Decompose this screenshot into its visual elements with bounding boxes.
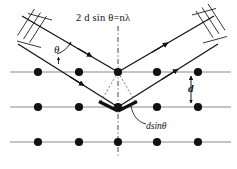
atom xyxy=(153,103,161,111)
atom xyxy=(34,103,42,111)
projection-line-right xyxy=(118,72,136,103)
incident-ray-lower-arrowhead xyxy=(70,77,84,86)
atom xyxy=(153,68,161,76)
incident-wavefront-ticks xyxy=(17,9,52,48)
incident-ray-upper-arrowhead xyxy=(78,49,92,57)
atom xyxy=(75,68,83,76)
projection-line-left xyxy=(100,72,118,103)
diagram-canvas xyxy=(0,0,237,169)
atom xyxy=(34,138,42,146)
theta-angle-label: θ xyxy=(54,44,59,55)
atom xyxy=(114,138,122,146)
diffracted-ray-lower-arrowhead xyxy=(162,69,178,79)
bragg-diffraction-figure: 2 d sin θ=nλ θ d dsinθ xyxy=(0,0,237,169)
atom-scattering-center-upper xyxy=(114,68,122,76)
dsintheta-leader-line xyxy=(131,106,146,124)
atom xyxy=(34,68,42,76)
incident-beam-group xyxy=(17,9,118,107)
d-spacing-label: d xyxy=(188,83,194,94)
path-difference-label: dsinθ xyxy=(146,122,167,132)
diffracted-wavefront-ticks xyxy=(192,4,227,43)
diffracted-ray-upper-arrowhead xyxy=(152,43,168,52)
atom xyxy=(75,138,83,146)
diffracted-beam-group xyxy=(118,4,227,107)
atom xyxy=(194,138,202,146)
atom xyxy=(75,103,83,111)
atom xyxy=(153,138,161,146)
atom-scattering-center-lower xyxy=(114,103,122,111)
bragg-equation-label: 2 d sin θ=nλ xyxy=(76,13,130,24)
atom xyxy=(194,68,202,76)
atom xyxy=(194,103,202,111)
